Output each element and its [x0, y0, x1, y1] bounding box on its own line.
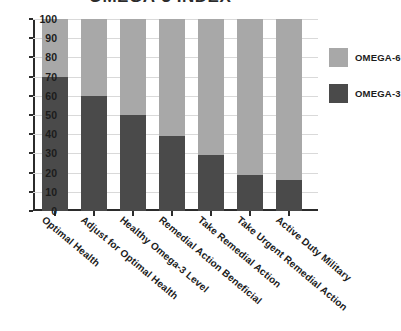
y-tick-label: 60 — [29, 90, 57, 102]
bar-segment-omega-3 — [81, 96, 107, 211]
bar-column — [276, 19, 302, 211]
bar-group — [33, 19, 318, 211]
bar-segment-omega-3 — [198, 155, 224, 211]
bar-column — [198, 19, 224, 211]
bar-segment-omega-6 — [120, 19, 146, 115]
bar-segment-omega-6 — [276, 19, 302, 180]
bar-segment-omega-3 — [120, 115, 146, 211]
y-tick-label: 40 — [29, 128, 57, 140]
bar-segment-omega-3 — [237, 175, 263, 211]
bar-column — [81, 19, 107, 211]
bar-segment-omega-6 — [81, 19, 107, 96]
y-tick-label: 100 — [29, 13, 57, 25]
y-tick-label: 70 — [29, 71, 57, 83]
y-tick-label: 90 — [29, 32, 57, 44]
y-tick-label: 30 — [29, 147, 57, 159]
bar-segment-omega-3 — [159, 136, 185, 211]
bar-column — [237, 19, 263, 211]
y-tick-label: 80 — [29, 51, 57, 63]
y-tick-label: 50 — [29, 109, 57, 121]
bar-column — [120, 19, 146, 211]
legend-swatch — [329, 84, 348, 103]
bar-segment-omega-6 — [159, 19, 185, 136]
x-axis-labels: Optimal HealthAdjust for Optimal HealthH… — [33, 214, 396, 331]
legend-item: OMEGA-3 — [329, 84, 396, 103]
bar-column — [159, 19, 185, 211]
legend-swatch — [329, 48, 348, 67]
chart-legend: OMEGA-6OMEGA-3 — [329, 48, 396, 120]
legend-label: OMEGA-3 — [355, 88, 401, 99]
bar-segment-omega-6 — [198, 19, 224, 155]
bar-segment-omega-3 — [276, 180, 302, 211]
y-tick-label: 20 — [29, 167, 57, 179]
legend-item: OMEGA-6 — [329, 48, 396, 67]
y-tick-label: 10 — [29, 186, 57, 198]
legend-label: OMEGA-6 — [355, 52, 401, 63]
bar-segment-omega-6 — [237, 19, 263, 175]
bar-segment-omega-6 — [42, 19, 68, 77]
x-axis-label: Active Duty Military — [274, 214, 354, 283]
plot-area — [33, 19, 318, 211]
chart-title: OMEGA-3 INDEX — [0, 0, 320, 7]
